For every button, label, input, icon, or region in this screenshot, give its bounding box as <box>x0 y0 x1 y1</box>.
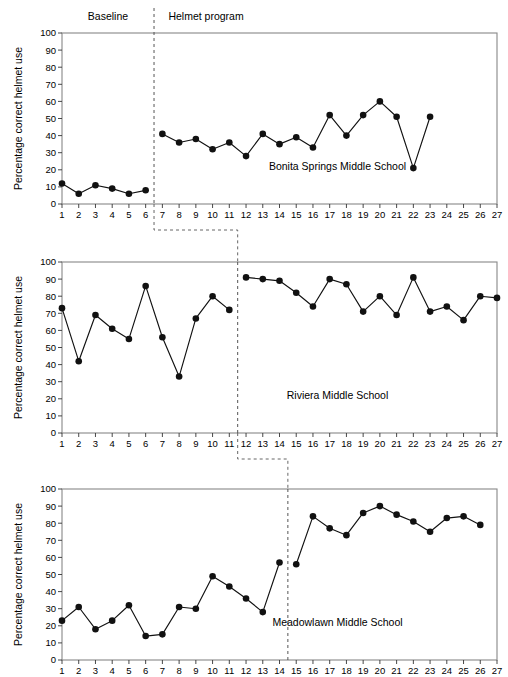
x-tick-label: 4 <box>110 209 115 220</box>
x-tick-label: 12 <box>241 438 252 449</box>
data-point <box>410 165 417 172</box>
x-tick-label: 18 <box>341 438 352 449</box>
x-tick-label: 6 <box>143 665 148 676</box>
x-tick-label: 14 <box>274 209 285 220</box>
x-tick-label: 2 <box>76 438 81 449</box>
data-point <box>209 146 216 153</box>
y-tick-label: 20 <box>45 620 56 631</box>
data-point <box>310 303 317 310</box>
data-point <box>226 583 233 590</box>
x-tick-label: 10 <box>207 438 218 449</box>
x-tick-label: 13 <box>257 209 268 220</box>
x-tick-label: 17 <box>324 209 335 220</box>
data-point <box>193 605 200 612</box>
y-tick-label: 70 <box>45 308 56 319</box>
x-tick-label: 5 <box>126 665 131 676</box>
x-tick-label: 14 <box>274 665 285 676</box>
data-point <box>444 515 451 522</box>
y-tick-label: 10 <box>45 637 56 648</box>
x-tick-label: 17 <box>324 438 335 449</box>
x-tick-label: 19 <box>358 665 369 676</box>
y-tick-label: 30 <box>45 376 56 387</box>
data-point <box>75 358 82 365</box>
data-point <box>243 274 250 281</box>
data-point <box>343 281 350 288</box>
x-tick-label: 12 <box>241 665 252 676</box>
x-tick-label: 4 <box>110 438 115 449</box>
y-tick-label: 90 <box>45 274 56 285</box>
x-tick-label: 26 <box>475 665 486 676</box>
data-point <box>109 185 116 192</box>
x-tick-label: 12 <box>241 209 252 220</box>
x-tick-label: 11 <box>224 438 234 449</box>
x-tick-label: 21 <box>391 438 402 449</box>
x-tick-label: 15 <box>291 438 302 449</box>
data-point <box>444 303 451 310</box>
series-line-baseline-panel-1 <box>62 183 146 193</box>
data-point <box>343 532 350 539</box>
y-tick-label: 20 <box>45 164 56 175</box>
data-point <box>209 293 216 300</box>
y-tick-label: 10 <box>45 410 56 421</box>
data-point <box>59 617 66 624</box>
y-tick-label: 20 <box>45 393 56 404</box>
x-tick-label: 9 <box>193 209 198 220</box>
data-point <box>360 112 367 119</box>
x-tick-label: 8 <box>176 438 181 449</box>
x-tick-label: 16 <box>308 209 319 220</box>
data-point <box>276 559 283 566</box>
x-tick-label: 13 <box>257 438 268 449</box>
y-tick-label: 90 <box>45 45 56 56</box>
data-point <box>360 510 367 517</box>
data-point <box>360 308 367 315</box>
x-tick-label: 25 <box>458 209 469 220</box>
phase-label-baseline: Baseline <box>88 10 128 22</box>
plot-frame-panel-2 <box>62 262 497 433</box>
data-point <box>226 139 233 146</box>
y-tick-label: 40 <box>45 130 56 141</box>
data-point <box>75 604 82 611</box>
x-tick-label: 23 <box>425 438 436 449</box>
data-point <box>293 289 300 296</box>
data-point <box>126 190 133 197</box>
data-point <box>59 180 66 187</box>
y-tick-label: 50 <box>45 342 56 353</box>
data-point <box>109 617 116 624</box>
data-point <box>243 595 250 602</box>
y-tick-label: 40 <box>45 586 56 597</box>
data-point <box>460 317 467 324</box>
x-tick-label: 20 <box>375 209 386 220</box>
data-point <box>276 141 283 148</box>
x-tick-label: 26 <box>475 438 486 449</box>
y-tick-label: 50 <box>45 569 56 580</box>
data-point <box>142 187 149 194</box>
data-point <box>326 112 333 119</box>
data-point <box>310 513 317 520</box>
data-point <box>193 136 200 143</box>
x-tick-label: 5 <box>126 438 131 449</box>
data-point <box>326 276 333 283</box>
data-point <box>293 561 300 568</box>
data-point <box>326 525 333 532</box>
y-tick-label: 80 <box>45 518 56 529</box>
data-point <box>494 295 501 302</box>
x-tick-label: 20 <box>375 665 386 676</box>
panel-label-3: Meadowlawn Middle School <box>272 616 402 628</box>
data-point <box>159 334 166 341</box>
y-axis-title-panel-1: Percentage correct helmet use <box>12 47 24 190</box>
x-tick-label: 16 <box>308 665 319 676</box>
x-tick-label: 27 <box>492 438 503 449</box>
x-tick-label: 16 <box>308 438 319 449</box>
data-point <box>176 139 183 146</box>
x-tick-label: 17 <box>324 665 335 676</box>
data-point <box>276 278 283 285</box>
series-line-baseline-panel-2 <box>62 286 229 377</box>
x-tick-label: 24 <box>442 438 453 449</box>
x-tick-label: 2 <box>76 665 81 676</box>
data-point <box>176 604 183 611</box>
data-point <box>92 312 99 319</box>
y-tick-label: 100 <box>40 256 56 267</box>
y-tick-label: 50 <box>45 113 56 124</box>
y-tick-label: 80 <box>45 291 56 302</box>
data-point <box>159 631 166 638</box>
